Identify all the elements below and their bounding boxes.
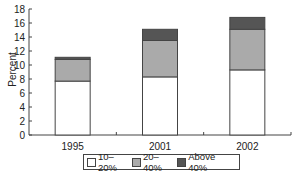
y-tick-label: 6 xyxy=(19,88,25,99)
legend-item-10-20: 10–20% xyxy=(87,151,132,173)
swatch-10-20 xyxy=(87,158,96,167)
bar-segment xyxy=(55,57,90,59)
y-tick-label: 16 xyxy=(14,18,26,29)
bar-segment xyxy=(143,29,178,40)
x-tick-label: 1995 xyxy=(62,141,85,152)
y-tick-label: 2 xyxy=(19,116,25,127)
x-tick-label: 2002 xyxy=(236,141,259,152)
bar-segment xyxy=(143,77,178,135)
bar-segment xyxy=(230,70,265,135)
bar-segment xyxy=(55,81,90,135)
legend-item-above-40: Above 40% xyxy=(177,151,236,173)
legend-label: 20–40% xyxy=(143,151,177,173)
y-tick-label: 8 xyxy=(19,74,25,85)
swatch-20-40 xyxy=(132,158,141,167)
bar-segment xyxy=(55,59,90,81)
bar-segment xyxy=(230,17,265,29)
legend-label: 10–20% xyxy=(98,151,132,173)
y-axis-label: Percent xyxy=(7,50,18,90)
y-tick-label: 4 xyxy=(19,102,25,113)
legend-label: Above 40% xyxy=(188,151,236,173)
bar-segment xyxy=(230,29,265,70)
legend: 10–20% 20–40% Above 40% xyxy=(83,154,240,170)
y-tick-label: 0 xyxy=(19,130,25,141)
stacked-bar-chart: 024681012141618199520012002 xyxy=(0,0,299,176)
bar-segment xyxy=(143,41,178,77)
swatch-above-40 xyxy=(177,158,186,167)
legend-item-20-40: 20–40% xyxy=(132,151,177,173)
y-tick-label: 14 xyxy=(14,32,26,43)
y-tick-label: 18 xyxy=(14,4,26,15)
